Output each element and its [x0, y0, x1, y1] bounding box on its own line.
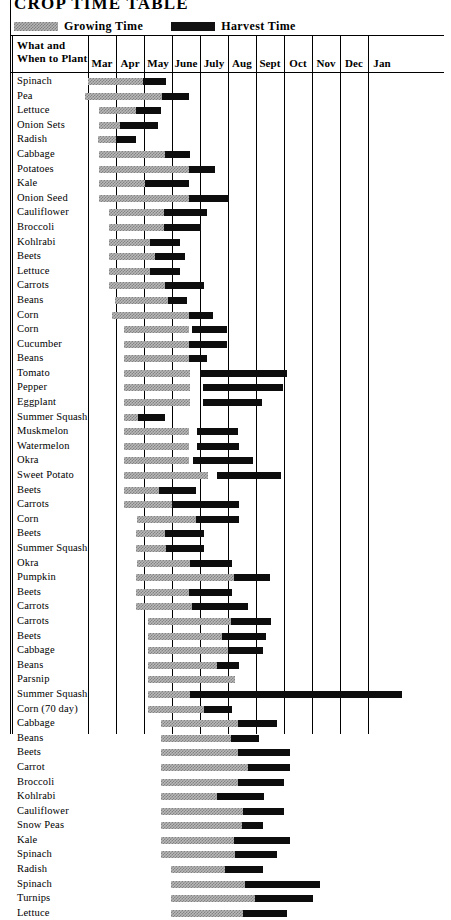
- harvest-time-bar: [155, 253, 184, 260]
- growing-time-swatch: [14, 22, 58, 31]
- growing-time-bar: [115, 297, 168, 304]
- month-header-july: July: [200, 57, 228, 71]
- table-row: Turnips: [0, 891, 451, 906]
- month-header-june: June: [172, 57, 200, 71]
- table-row: Okra: [0, 556, 451, 571]
- harvest-time-bar: [138, 414, 165, 421]
- table-row: Lettuce: [0, 264, 451, 279]
- table-row: Spinach: [0, 74, 451, 89]
- crop-name-label: Pumpkin: [17, 570, 56, 584]
- growing-time-bar: [109, 253, 155, 260]
- crop-name-label: Lettuce: [17, 906, 50, 920]
- growing-time-bar: [171, 910, 244, 917]
- harvest-time-bar: [234, 574, 270, 581]
- table-row: Cabbage: [0, 147, 451, 162]
- growing-time-bar: [148, 647, 228, 654]
- harvest-time-bar: [204, 706, 232, 713]
- crop-name-label: Corn (70 day): [17, 702, 78, 716]
- crop-name-label: Cabbage: [17, 643, 55, 657]
- crop-name-label: Radish: [17, 862, 47, 876]
- harvest-time-bar: [116, 136, 136, 143]
- harvest-time-bar: [242, 822, 263, 829]
- harvest-time-bar: [197, 428, 238, 435]
- growing-time-bar: [98, 136, 116, 143]
- growing-time-bar: [124, 414, 138, 421]
- crop-name-label: Carrots: [17, 497, 49, 511]
- crop-name-label: Summer Squash: [17, 541, 88, 555]
- table-row: Beans: [0, 351, 451, 366]
- growing-time-bar: [171, 881, 245, 888]
- crop-name-label: Beets: [17, 585, 41, 599]
- growing-time-bar: [109, 268, 150, 275]
- growing-time-bar: [99, 122, 120, 129]
- crop-name-label: Okra: [17, 556, 39, 570]
- growing-time-bar: [124, 501, 172, 508]
- harvest-time-bar: [234, 837, 290, 844]
- table-row: Pumpkin: [0, 570, 451, 585]
- crop-name-label: Carrot: [17, 760, 45, 774]
- legend: Growing Time Harvest Time: [14, 15, 320, 29]
- crop-name-label: Beets: [17, 483, 41, 497]
- growing-time-bar: [148, 633, 222, 640]
- growing-time-bar: [148, 691, 190, 698]
- crop-name-label: Beets: [17, 526, 41, 540]
- legend-label-growing: Growing Time: [64, 19, 143, 34]
- table-row: Beets: [0, 629, 451, 644]
- growing-time-bar: [124, 384, 190, 391]
- growing-time-bar: [124, 457, 188, 464]
- growing-time-bar: [161, 749, 238, 756]
- growing-time-bar: [99, 195, 189, 202]
- crop-name-label: Broccoli: [17, 775, 54, 789]
- crop-name-label: Carrots: [17, 599, 49, 613]
- harvest-time-bar: [189, 312, 213, 319]
- growing-time-bar: [109, 239, 150, 246]
- harvest-time-bar: [190, 560, 232, 567]
- crop-name-label: Corn: [17, 322, 39, 336]
- table-row: Onion Sets: [0, 118, 451, 133]
- month-header-may: May: [144, 57, 172, 71]
- growing-time-bar: [161, 837, 234, 844]
- table-row: Carrots: [0, 614, 451, 629]
- crop-name-label: Eggplant: [17, 395, 56, 409]
- crop-name-label: Summer Squash: [17, 410, 88, 424]
- month-header-mar: Mar: [88, 57, 116, 71]
- growing-time-bar: [161, 822, 242, 829]
- harvest-time-bar: [166, 545, 204, 552]
- table-row: Kohlrabi: [0, 789, 451, 804]
- harvest-time-bar: [189, 195, 230, 202]
- crop-name-label: Spinach: [17, 74, 52, 88]
- harvest-time-bar: [168, 297, 188, 304]
- growing-time-bar: [161, 851, 235, 858]
- crop-name-label: Kale: [17, 176, 37, 190]
- table-row: Summer Squash: [0, 541, 451, 556]
- harvest-time-bar: [165, 282, 204, 289]
- month-header-aug: Aug: [228, 57, 256, 71]
- growing-time-bar: [161, 793, 217, 800]
- growing-time-bar: [161, 764, 248, 771]
- harvest-time-bar: [150, 239, 181, 246]
- table-row: Sweet Potato: [0, 468, 451, 483]
- growing-time-bar: [171, 895, 255, 902]
- table-row: Broccoli: [0, 775, 451, 790]
- table-row: Beets: [0, 585, 451, 600]
- crop-name-label: Muskmelon: [17, 424, 69, 438]
- growing-time-bar: [124, 370, 190, 377]
- growing-time-bar: [136, 603, 192, 610]
- row-header-line2: When to Plant: [17, 52, 89, 65]
- harvest-time-bar: [217, 472, 281, 479]
- growing-time-bar: [148, 676, 235, 683]
- crop-name-label: Turnips: [17, 891, 50, 905]
- harvest-time-bar: [231, 618, 272, 625]
- crop-name-label: Okra: [17, 453, 39, 467]
- growing-time-bar: [137, 516, 196, 523]
- growing-time-bar: [124, 341, 188, 348]
- harvest-time-swatch: [171, 22, 215, 31]
- harvest-time-bar: [203, 399, 262, 406]
- crop-name-label: Tomato: [17, 366, 50, 380]
- table-row: Corn: [0, 322, 451, 337]
- crop-name-label: Spinach: [17, 877, 52, 891]
- growing-time-bar: [148, 706, 204, 713]
- harvest-time-bar: [164, 224, 202, 231]
- harvest-time-bar: [189, 341, 227, 348]
